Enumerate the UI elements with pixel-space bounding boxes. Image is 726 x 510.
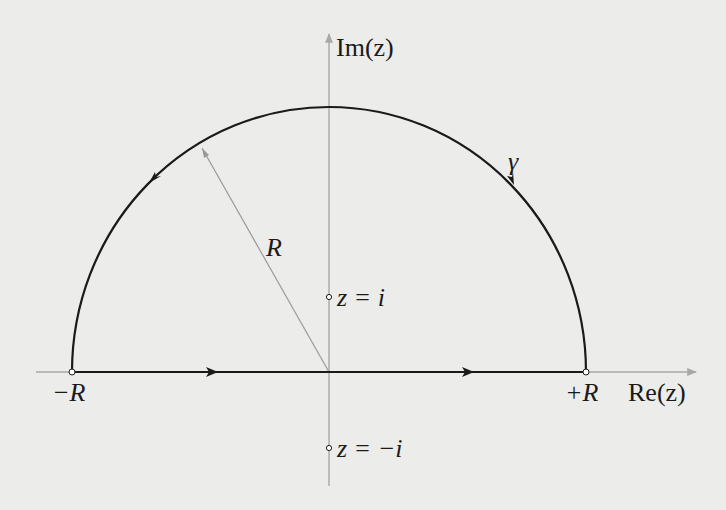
left-endpoint-marker [69, 369, 75, 375]
pole-i-label: z = i [336, 283, 385, 312]
right-endpoint-label: +R [565, 378, 599, 407]
right-endpoint-marker [583, 369, 589, 375]
pole-minus-i-label: z = −i [336, 434, 402, 463]
radius-arrowhead-icon [202, 148, 209, 158]
real-axis-label: Re(z) [628, 378, 686, 407]
left-endpoint-label: −R [52, 378, 86, 407]
pole-minus-i-marker [326, 445, 331, 450]
pole-i-marker [326, 294, 331, 299]
radius-label: R [265, 233, 282, 262]
imaginary-axis-label: Im(z) [336, 33, 394, 62]
contour-gamma-label: γ [508, 147, 519, 176]
contour-diagram: Im(z) Re(z) γ R −R +R z = i z = −i [0, 0, 726, 510]
